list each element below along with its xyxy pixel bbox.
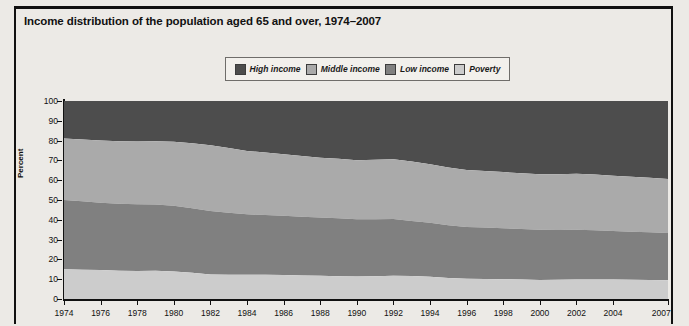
x-tick-mark-2007 [668, 300, 669, 305]
x-tick-label-2007: 2007 [652, 308, 671, 318]
x-tick-mark-1976 [101, 300, 102, 305]
x-tick-label-2002: 2002 [567, 308, 586, 318]
x-tick-label-1982: 1982 [201, 308, 220, 318]
x-tick-label-1998: 1998 [494, 308, 513, 318]
x-tick-mark-1994 [430, 300, 431, 305]
x-tick-label-1992: 1992 [384, 308, 403, 318]
x-tick-label-2004: 2004 [604, 308, 623, 318]
x-tick-mark-2002 [576, 300, 577, 305]
x-tick-label-1994: 1994 [421, 308, 440, 318]
x-tick-label-1978: 1978 [128, 308, 147, 318]
x-tick-label-1996: 1996 [457, 308, 476, 318]
x-tick-label-1986: 1986 [274, 308, 293, 318]
x-tick-mark-1988 [320, 300, 321, 305]
x-tick-mark-2000 [540, 300, 541, 305]
x-tick-label-1990: 1990 [347, 308, 366, 318]
figure-container: Income distribution of the population ag… [0, 0, 689, 326]
x-tick-label-1988: 1988 [311, 308, 330, 318]
x-tick-mark-1982 [210, 300, 211, 305]
x-tick-mark-1986 [284, 300, 285, 305]
x-tick-mark-1978 [137, 300, 138, 305]
stacked-area-svg [64, 101, 668, 299]
x-tick-label-1984: 1984 [238, 308, 257, 318]
x-tick-label-2000: 2000 [530, 308, 549, 318]
x-tick-mark-1998 [503, 300, 504, 305]
x-tick-mark-2004 [613, 300, 614, 305]
x-tick-mark-1990 [357, 300, 358, 305]
x-tick-mark-1996 [467, 300, 468, 305]
x-tick-label-1980: 1980 [164, 308, 183, 318]
x-tick-mark-1984 [247, 300, 248, 305]
plot-area [64, 101, 668, 299]
x-tick-mark-1980 [174, 300, 175, 305]
x-axis-line [63, 299, 669, 301]
x-tick-mark-1992 [393, 300, 394, 305]
x-tick-label-1976: 1976 [91, 308, 110, 318]
x-tick-label-1974: 1974 [55, 308, 74, 318]
